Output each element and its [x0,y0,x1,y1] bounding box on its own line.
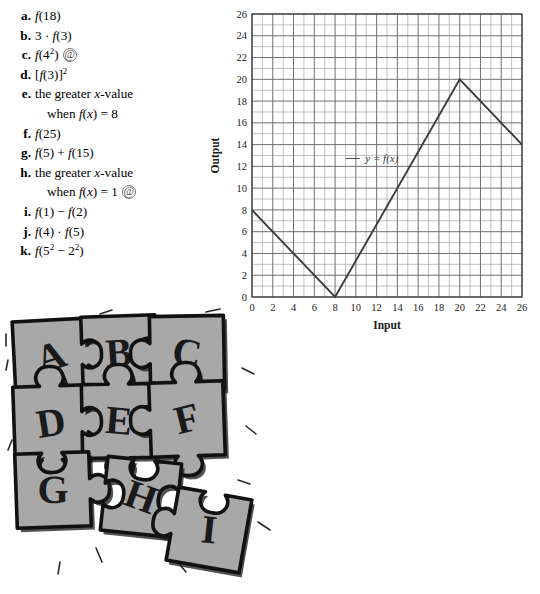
function-graph-svg: 02468101214161820222426 0246810121416182… [205,4,540,334]
puzzle-motion-mark [96,548,102,562]
exercise-item-expression: f(18) [35,6,61,26]
puzzle-motion-mark [58,562,60,574]
jigsaw-puzzle-svg: ABCDEFGHI [0,308,300,594]
exercise-item: f.f(25) [18,124,218,144]
exercise-item-label: c. [18,45,35,65]
exercise-item-label: b. [18,26,35,46]
x-tick-label: 26 [517,302,528,313]
y-tick-label: 0 [242,292,247,303]
exercise-item-expression: the greater x-valuewhen f(x) = 1@ [35,163,136,202]
exercise-item-label: f. [18,124,35,144]
puzzle-motion-mark [246,426,256,434]
x-tick-label: 8 [332,302,337,313]
puzzle-motion-mark [206,309,220,312]
puzzle-motion-mark [242,368,254,374]
y-axis-label: Output [209,137,222,173]
exercise-item-label: i. [18,202,35,222]
x-tick-label: 12 [371,302,382,313]
x-axis-label: Input [373,319,401,332]
y-tick-label: 2 [242,270,247,281]
jigsaw-puzzle-illustration: ABCDEFGHI [0,308,300,594]
exercise-item: h.the greater x-valuewhen f(x) = 1@ [18,163,218,202]
exercise-item-label: j. [18,222,35,242]
exercise-item: k.f(52 − 22) [18,241,218,261]
exercise-item-expression: f(52 − 22) [35,241,84,261]
exercise-item-label: d. [18,65,35,85]
exercise-item-expression: [f(3)]2 [35,65,67,85]
exercise-item: d.[f(3)]2 [18,65,218,85]
exercise-item-expression: f(25) [35,124,61,144]
exercise-item-expression: f(4) · f(5) [35,222,84,242]
exercise-item: j.f(4) · f(5) [18,222,218,242]
exercise-item-label: k. [18,241,35,261]
exercise-item: c.f(42)@ [18,45,218,65]
puzzle-motion-mark [258,522,270,530]
puzzle-piece-letter: G [37,467,69,513]
x-tick-label: 10 [351,302,362,313]
y-tick-label: 10 [237,183,248,194]
y-tick-label: 20 [237,74,248,85]
puzzle-motion-mark [238,480,250,484]
x-tick-label: 20 [454,302,465,313]
exercise-item-label: h. [18,163,35,183]
exercise-item-label: e. [18,84,35,104]
puzzle-piece: G [15,451,115,532]
at-annotation-icon: @ [122,185,136,199]
exercise-item: e.the greater x-valuewhen f(x) = 8 [18,84,218,123]
exercise-item: a.f(18) [18,6,218,26]
exercise-list: a.f(18)b.3 · f(3)c.f(42)@d.[f(3)]2e.the … [18,6,218,261]
puzzle-motion-mark [8,440,12,450]
at-annotation-icon: @ [63,48,77,62]
exercise-item-label: g. [18,143,35,163]
exercise-item-expression: f(1) − f(2) [35,202,87,222]
exercise-item: g.f(5) + f(15) [18,143,218,163]
exercise-item-expression: f(5) + f(15) [35,143,94,163]
puzzle-motion-mark [6,360,8,370]
x-tick-label: 24 [496,302,507,313]
x-tick-label: 18 [434,302,445,313]
y-tick-label: 26 [237,9,248,20]
curve-label: y = f(x) [346,152,399,165]
x-tick-label: 16 [413,302,424,313]
x-tick-label: 22 [475,302,486,313]
y-tick-label: 8 [242,205,247,216]
exercise-item: b.3 · f(3) [18,26,218,46]
y-tick-label: 6 [242,226,247,237]
y-tick-label: 12 [237,161,248,172]
exercise-item-expression: f(42)@ [35,45,77,65]
exercise-item-expression: the greater x-valuewhen f(x) = 8 [35,84,133,123]
exercise-item: i.f(1) − f(2) [18,202,218,222]
function-graph-figure: 02468101214161820222426 0246810121416182… [205,4,540,334]
x-tick-label: 14 [392,302,403,313]
curve-label-text: y = f(x) [364,152,398,165]
y-axis-tick-labels: 02468101214161820222426 [237,9,248,303]
y-tick-label: 16 [237,117,248,128]
exercise-item-label: a. [18,6,35,26]
curve-annotation: y = f(x) [346,152,399,165]
y-tick-label: 18 [237,96,248,107]
y-tick-label: 24 [237,30,248,41]
y-tick-label: 4 [242,248,248,259]
puzzle-motion-mark [100,310,112,314]
y-tick-label: 22 [237,52,248,63]
x-tick-label: 6 [312,302,317,313]
y-tick-label: 14 [237,139,248,150]
exercise-item-expression: 3 · f(3) [35,26,72,46]
